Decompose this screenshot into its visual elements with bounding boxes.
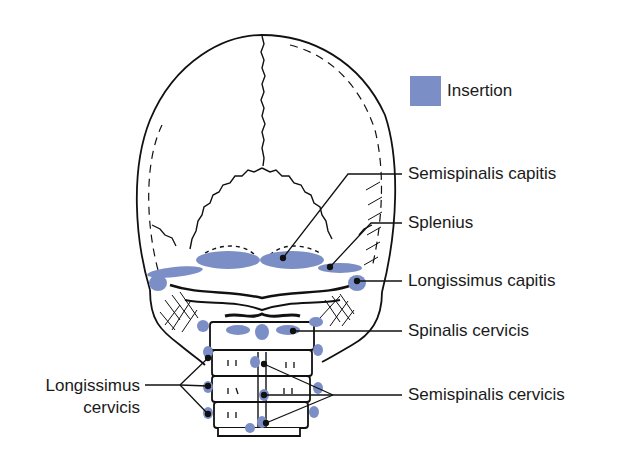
legend-swatch-insertion (410, 76, 441, 106)
label-splenius: Splenius (408, 213, 473, 233)
label-longissimus-cervicis-line1: Longissimus (30, 375, 140, 397)
label-longissimus-capitis: Longissimus capitis (408, 271, 555, 291)
label-longissimus-cervicis-line2: cervicis (30, 397, 140, 419)
legend-label-insertion: Insertion (447, 81, 512, 101)
label-semispinalis-capitis: Semispinalis capitis (408, 164, 556, 184)
label-semispinalis-cervicis: Semispinalis cervicis (408, 385, 565, 405)
skull-outline (137, 35, 395, 365)
label-longissimus-cervicis: Longissimus cervicis (30, 375, 140, 419)
label-spinalis-cervicis: Spinalis cervicis (408, 321, 529, 341)
